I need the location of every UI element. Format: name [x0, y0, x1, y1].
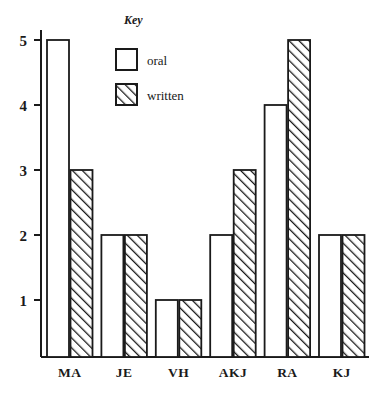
bar-written-akj	[234, 170, 256, 357]
bar-written-je	[125, 235, 147, 357]
bar-oral-ma	[47, 40, 69, 357]
legend-swatch-written	[116, 84, 137, 105]
bar-chart: 12345 MAJEVHAKJRAKJ Key oral written	[0, 0, 384, 396]
legend-label-written: written	[147, 88, 184, 103]
bar-written-vh	[179, 300, 201, 357]
y-tick-label: 5	[20, 33, 28, 49]
y-tick-label: 2	[20, 228, 28, 244]
x-tick-label-vh: VH	[168, 365, 189, 380]
bar-written-ra	[288, 40, 310, 357]
x-tick-label-akj: AKJ	[219, 365, 247, 380]
bar-oral-ra	[265, 105, 287, 357]
legend-swatch-oral	[116, 49, 137, 70]
bar-written-kj	[343, 235, 365, 357]
x-tick-label-kj: KJ	[333, 365, 351, 380]
y-tick-label: 3	[20, 163, 28, 179]
x-tick-label-ma: MA	[58, 365, 81, 380]
legend-title: Key	[123, 13, 143, 27]
bar-oral-vh	[156, 300, 178, 357]
y-tick-label: 4	[20, 98, 28, 114]
chart-canvas: 12345 MAJEVHAKJRAKJ Key oral written	[0, 0, 384, 396]
y-tick-label: 1	[20, 293, 28, 309]
legend-label-oral: oral	[147, 53, 168, 68]
bar-oral-je	[101, 235, 123, 357]
bar-oral-akj	[210, 235, 232, 357]
bar-written-ma	[71, 170, 93, 357]
x-tick-label-je: JE	[116, 365, 133, 380]
bar-oral-kj	[319, 235, 341, 357]
x-tick-label-ra: RA	[277, 365, 297, 380]
